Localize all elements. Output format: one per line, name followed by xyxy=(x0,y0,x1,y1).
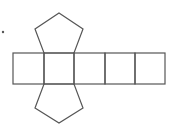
rectangle-face-1 xyxy=(13,53,44,84)
rectangle-face-4 xyxy=(105,53,135,84)
pentagonal-prism-net xyxy=(0,0,171,132)
top-pentagon-face xyxy=(35,13,83,53)
rectangle-face-5 xyxy=(135,53,165,84)
bottom-pentagon-face xyxy=(35,84,83,123)
rectangle-face-2 xyxy=(44,53,74,84)
rectangle-face-3 xyxy=(74,53,105,84)
marker-dot xyxy=(2,31,4,33)
